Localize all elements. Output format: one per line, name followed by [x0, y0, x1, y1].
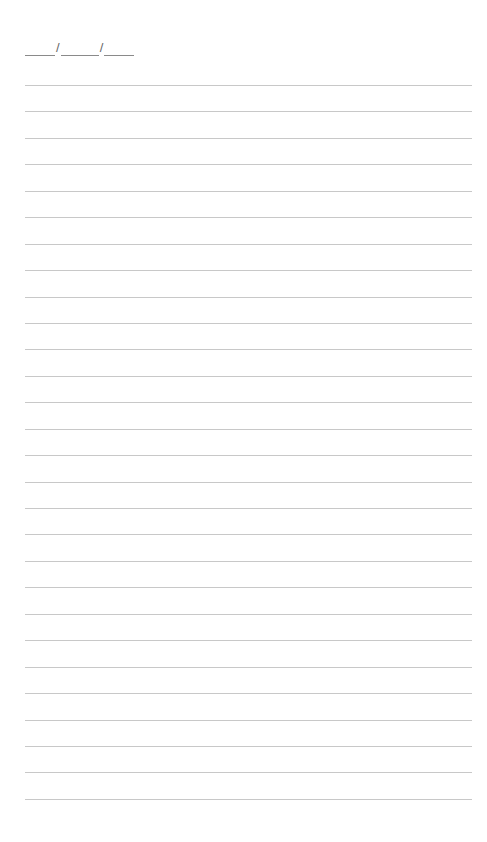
ruled-line [25, 482, 472, 483]
date-blank-year[interactable] [104, 41, 134, 56]
ruled-line [25, 191, 472, 192]
date-separator: / [100, 41, 104, 55]
ruled-line [25, 455, 472, 456]
ruled-line [25, 693, 472, 694]
ruled-line [25, 244, 472, 245]
date-separator: / [56, 41, 60, 55]
ruled-line [25, 746, 472, 747]
ruled-line [25, 297, 472, 298]
ruled-line [25, 561, 472, 562]
ruled-line [25, 640, 472, 641]
ruled-line [25, 772, 472, 773]
ruled-line [25, 508, 472, 509]
ruled-line [25, 587, 472, 588]
ruled-line [25, 799, 472, 800]
ruled-line [25, 349, 472, 350]
ruled-line [25, 111, 472, 112]
ruled-line [25, 164, 472, 165]
ruled-line [25, 667, 472, 668]
ruled-line [25, 85, 472, 86]
date-blank-month[interactable] [25, 41, 55, 56]
ruled-line [25, 614, 472, 615]
ruled-line [25, 217, 472, 218]
date-blank-day[interactable] [61, 41, 99, 56]
ruled-line [25, 323, 472, 324]
ruled-line [25, 720, 472, 721]
ruled-line [25, 534, 472, 535]
ruled-line [25, 429, 472, 430]
ruled-line [25, 138, 472, 139]
ruled-line [25, 402, 472, 403]
ruled-line [25, 270, 472, 271]
ruled-line [25, 376, 472, 377]
date-field[interactable]: / / [25, 40, 134, 56]
